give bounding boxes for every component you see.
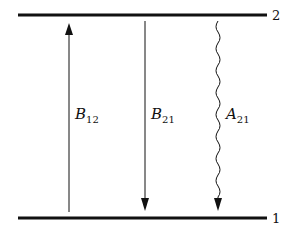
stimulated-emission-arrow: B21 [141, 21, 175, 211]
energy-level-diagram: 2 1 B12 B21 A21 [0, 0, 291, 236]
lower-level: 1 [18, 211, 280, 226]
absorption-arrow: B12 [65, 23, 99, 212]
spontaneous-emission-arrow: A21 [214, 21, 250, 211]
stimulated-emission-label: B21 [150, 105, 175, 125]
arrow-up-icon [65, 23, 73, 35]
spontaneous-emission-label: A21 [224, 105, 250, 125]
absorption-label: B12 [74, 105, 99, 125]
arrow-down-icon [141, 198, 149, 211]
wavy-line-icon [216, 21, 220, 200]
upper-level-label: 2 [272, 8, 280, 23]
lower-level-label: 1 [272, 211, 280, 226]
upper-level: 2 [18, 8, 280, 23]
arrow-down-icon [214, 198, 222, 211]
